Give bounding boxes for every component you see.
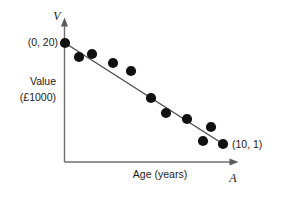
scatter-chart-figure: V A Age (years) Value (£1000) (0, 20) (1… <box>0 0 282 198</box>
data-point <box>198 136 208 146</box>
data-point <box>218 139 228 149</box>
end-point-label: (10, 1) <box>232 138 262 150</box>
data-point <box>87 49 97 59</box>
data-point <box>182 114 192 124</box>
y-axis-title-line2: (£1000) <box>20 91 56 103</box>
start-point-label: (0, 20) <box>28 36 58 48</box>
data-point <box>161 108 171 118</box>
data-point <box>206 122 216 132</box>
x-axis-title: Age (years) <box>133 168 187 180</box>
data-point <box>60 38 70 48</box>
y-axis-symbol: V <box>53 9 62 23</box>
x-axis-arrow-icon <box>230 159 239 166</box>
data-point <box>126 66 136 76</box>
y-axis-arrow-icon <box>61 18 68 27</box>
x-axis-symbol: A <box>228 171 237 185</box>
data-point <box>146 93 156 103</box>
y-axis-title-line1: Value <box>30 75 56 87</box>
line-of-best-fit <box>65 43 223 144</box>
data-point <box>108 58 118 68</box>
data-point <box>74 52 84 62</box>
chart-plot-area: V A Age (years) Value (£1000) (0, 20) (1… <box>0 0 282 198</box>
